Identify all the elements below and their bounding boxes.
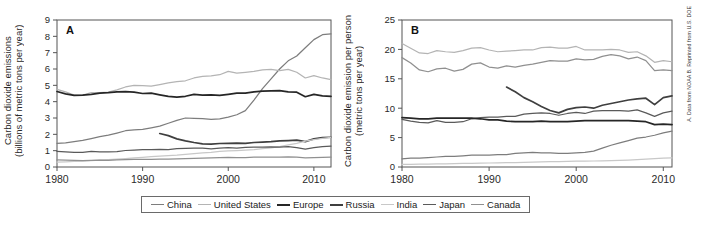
svg-text:4: 4 — [45, 96, 50, 107]
svg-text:1980: 1980 — [45, 173, 69, 185]
legend-swatch-icon — [151, 204, 164, 205]
svg-text:1990: 1990 — [477, 173, 501, 185]
legend-item-india: India — [381, 199, 418, 210]
svg-text:5: 5 — [390, 132, 395, 143]
legend-swatch-icon — [423, 204, 436, 205]
legend-swatch-icon — [330, 204, 343, 206]
legend-swatch-icon — [471, 204, 484, 205]
legend-item-russia: Russia — [330, 199, 375, 210]
chart-panel-a: Carbon dioxide emissions (billions of me… — [0, 0, 340, 190]
panel-a-y-axis-label: Carbon dioxide emissions (billions of me… — [2, 16, 24, 166]
legend-label: China — [167, 199, 192, 210]
svg-text:1980: 1980 — [390, 173, 414, 185]
svg-text:25: 25 — [384, 14, 395, 25]
chart-panel-b: Carbon dioxide emission per person (metr… — [340, 0, 680, 190]
legend-label: Japan — [439, 199, 465, 210]
legend-item-europe: Europe — [277, 199, 324, 210]
svg-text:2000: 2000 — [565, 173, 589, 185]
svg-text:3: 3 — [45, 112, 50, 123]
legend-label: Canada — [487, 199, 520, 210]
svg-text:B: B — [411, 24, 419, 36]
svg-text:10: 10 — [384, 103, 395, 114]
svg-text:2000: 2000 — [217, 173, 241, 185]
svg-text:0: 0 — [390, 161, 395, 172]
legend-label: India — [397, 199, 418, 210]
legend-item-canada: Canada — [471, 199, 520, 210]
panel-b-y-axis-label: Carbon dioxide emission per person (metr… — [342, 12, 364, 170]
svg-text:20: 20 — [384, 44, 395, 55]
legend-label: United States — [214, 199, 271, 210]
legend-item-japan: Japan — [423, 199, 465, 210]
svg-text:1: 1 — [45, 145, 50, 156]
svg-text:A: A — [66, 24, 74, 36]
svg-text:9: 9 — [45, 14, 50, 25]
figure-root: Carbon dioxide emissions (billions of me… — [0, 0, 703, 229]
svg-text:2010: 2010 — [302, 173, 326, 185]
panel-b-plot-area: 05101520251980199020002010B — [390, 6, 682, 190]
svg-text:1990: 1990 — [131, 173, 155, 185]
panel-a-svg: 01234567891980199020002010A — [46, 6, 338, 190]
legend-swatch-icon — [277, 204, 290, 206]
legend-swatch-icon — [198, 204, 211, 205]
figure-credit: A. Data from NOAA B. Reprinted from U.S.… — [686, 6, 692, 122]
legend-swatch-icon — [381, 204, 394, 205]
svg-text:2010: 2010 — [652, 173, 676, 185]
legend-label: Russia — [346, 199, 375, 210]
svg-text:6: 6 — [45, 63, 50, 74]
panel-b-svg: 05101520251980199020002010B — [390, 6, 682, 190]
svg-text:5: 5 — [45, 80, 50, 91]
legend-item-china: China — [151, 199, 192, 210]
chart-legend: ChinaUnited StatesEuropeRussiaIndiaJapan… — [141, 196, 530, 213]
legend-label: Europe — [293, 199, 324, 210]
svg-text:8: 8 — [45, 31, 50, 42]
svg-text:2: 2 — [45, 129, 50, 140]
legend-item-united-states: United States — [198, 199, 271, 210]
panel-a-plot-area: 01234567891980199020002010A — [46, 6, 338, 190]
svg-text:7: 7 — [45, 47, 50, 58]
svg-text:0: 0 — [45, 161, 50, 172]
svg-text:15: 15 — [384, 73, 395, 84]
